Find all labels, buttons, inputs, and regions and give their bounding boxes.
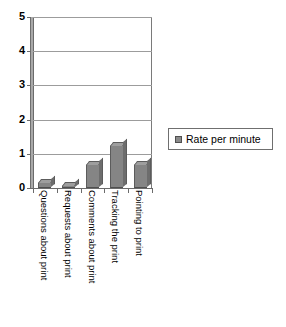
- bar: [38, 183, 51, 188]
- gridline: [33, 17, 152, 18]
- gridline: [33, 120, 152, 121]
- legend-label: Rate per minute: [186, 133, 261, 145]
- x-tick-mark: [81, 189, 82, 193]
- x-tick-label: Comments about print: [86, 190, 99, 283]
- x-axis-label-slot: Requests about print: [62, 195, 76, 315]
- x-axis-label-slot: Pointing to print: [133, 195, 147, 315]
- x-tick-label: Questions about print: [38, 190, 51, 280]
- bar-side-face: [147, 158, 151, 187]
- bar-chart: 543210 Questions about printRequests abo…: [0, 0, 286, 327]
- y-tick-mark: [27, 17, 31, 18]
- y-tick-label: 3: [11, 79, 25, 90]
- x-tick-mark: [128, 189, 129, 193]
- gridline: [33, 85, 152, 86]
- y-tick-mark: [27, 188, 31, 189]
- y-tick-label: 5: [11, 11, 25, 22]
- bar-side-face: [123, 139, 127, 187]
- legend: Rate per minute: [168, 128, 273, 150]
- legend-swatch-icon: [175, 136, 182, 143]
- x-tick-mark: [57, 189, 58, 193]
- y-tick-label: 4: [11, 45, 25, 56]
- x-tick-mark: [104, 189, 105, 193]
- x-axis-line: [30, 188, 153, 189]
- bar: [86, 165, 99, 188]
- y-tick-mark: [27, 120, 31, 121]
- x-tick-mark: [152, 189, 153, 193]
- gridline: [33, 154, 152, 155]
- y-tick-mark: [27, 85, 31, 86]
- y-tick-mark: [27, 51, 31, 52]
- bar: [110, 146, 123, 188]
- bar-side-face: [99, 158, 103, 187]
- x-axis-label-slot: Tracking the print: [109, 195, 123, 315]
- y-tick-mark: [27, 154, 31, 155]
- x-tick-label: Requests about print: [62, 190, 75, 278]
- x-tick-label: Pointing to print: [133, 190, 146, 256]
- x-tick-label: Tracking the print: [109, 190, 122, 263]
- bar: [134, 165, 147, 188]
- y-tick-label: 0: [11, 182, 25, 193]
- gridline: [33, 51, 152, 52]
- x-axis-label-slot: Comments about print: [86, 195, 100, 315]
- bar: [62, 186, 75, 188]
- y-axis-line: [33, 17, 34, 189]
- x-axis-label-slot: Questions about print: [38, 195, 52, 315]
- y-tick-label: 2: [11, 114, 25, 125]
- y-tick-label: 1: [11, 148, 25, 159]
- x-tick-mark: [33, 189, 34, 193]
